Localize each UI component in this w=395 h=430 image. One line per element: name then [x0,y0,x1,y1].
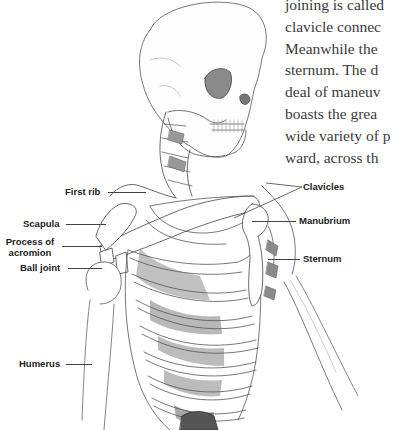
body-text: joining is called clavicle connec Meanwh… [285,0,395,168]
label-process-of-acromion-line1: Process of [4,236,56,247]
label-sternum: Sternum [303,253,342,264]
text-line: sternum. The d [285,59,395,81]
label-ball-joint: Ball joint [20,262,60,273]
leader-line-ball-joint [68,268,102,269]
skull [139,2,266,157]
humerus [82,262,121,430]
text-line: clavicle connec [285,16,395,38]
leader-line-scapula [66,224,106,225]
text-line: wide variety of p [285,125,395,147]
leader-line-manubrium [252,221,296,222]
text-line: joining is called [285,0,395,16]
label-clavicles: Clavicles [303,181,344,192]
label-first-rib: First rib [65,186,100,197]
text-line: ward, across th [285,147,395,169]
leader-line-humerus [66,364,92,365]
label-process-of-acromion-line2: acromion [4,247,56,258]
leader-lines-clavicles [230,180,305,220]
leader-line-first-rib [108,192,146,193]
label-manubrium: Manubrium [299,215,350,226]
label-humerus: Humerus [19,358,60,369]
text-line: boasts the grea [285,103,395,125]
text-line: Meanwhile the [285,38,395,60]
text-line: deal of maneuv [285,81,395,103]
leader-line-process-of-acromion [62,246,102,247]
leader-line-sternum [268,259,300,260]
label-scapula: Scapula [23,218,59,229]
